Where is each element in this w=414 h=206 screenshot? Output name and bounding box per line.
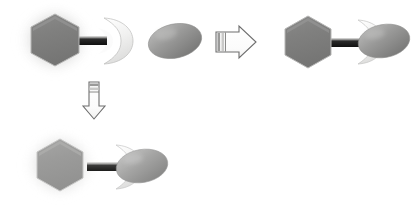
bound-hexagon-top: [285, 16, 331, 68]
diagram-svg: [0, 0, 414, 206]
free-receptor-group: [15, 4, 133, 76]
bound-ligand-top: [356, 20, 413, 62]
bound-complex-top-right: [285, 16, 412, 68]
reaction-arrow-right: [216, 26, 256, 58]
diagram-canvas: [0, 0, 414, 206]
bound-linker-bar-top: [329, 38, 363, 47]
reaction-arrow-down: [83, 82, 105, 119]
bound-linker-bar-bottom: [87, 162, 121, 171]
bound-complex-bottom-left: [21, 130, 170, 200]
bound-ligand-bottom: [114, 145, 171, 187]
free-ligand-ellipse: [145, 19, 205, 63]
